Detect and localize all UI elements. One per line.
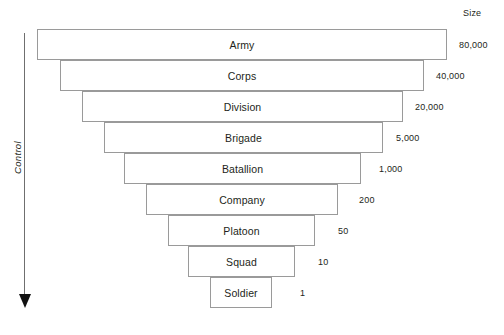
funnel-tier-division[interactable]: Division <box>82 91 403 122</box>
tier-label: Platoon <box>223 225 259 237</box>
tier-label: Army <box>230 39 255 51</box>
tier-size-company: 200 <box>359 184 375 215</box>
tier-size-corps: 40,000 <box>436 60 465 91</box>
tier-size-soldier: 1 <box>300 277 305 308</box>
tier-label: Division <box>224 101 262 113</box>
funnel-tier-squad[interactable]: Squad <box>188 246 295 277</box>
funnel-diagram: Control Size Army 80,000 Corps 40,000 Di… <box>0 0 504 335</box>
funnel-tier-corps[interactable]: Corps <box>60 60 424 91</box>
tier-label: Brigade <box>225 132 262 144</box>
tier-size-squad: 10 <box>318 246 328 277</box>
tier-size-platoon: 50 <box>338 215 348 246</box>
funnel-tier-soldier[interactable]: Soldier <box>210 277 272 308</box>
funnel-tier-brigade[interactable]: Brigade <box>104 122 383 153</box>
tier-label: Squad <box>226 256 257 268</box>
tier-label: Soldier <box>224 287 257 299</box>
tier-label: Company <box>219 194 265 206</box>
tier-size-division: 20,000 <box>415 91 444 122</box>
tier-size-army: 80,000 <box>459 29 488 60</box>
funnel-tier-list: Army 80,000 Corps 40,000 Division 20,000… <box>0 0 504 335</box>
funnel-tier-platoon[interactable]: Platoon <box>168 215 315 246</box>
tier-size-brigade: 5,000 <box>396 122 420 153</box>
tier-size-batallion: 1,000 <box>379 153 403 184</box>
funnel-tier-batallion[interactable]: Batallion <box>124 153 361 184</box>
funnel-tier-army[interactable]: Army <box>37 29 447 60</box>
funnel-tier-company[interactable]: Company <box>146 184 338 215</box>
tier-label: Corps <box>228 70 257 82</box>
tier-label: Batallion <box>222 163 263 175</box>
